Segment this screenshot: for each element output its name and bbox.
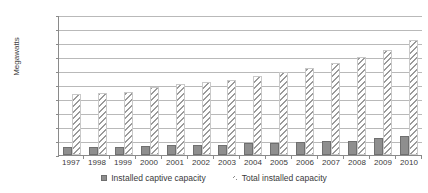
bar-group (85, 16, 111, 155)
bar (409, 40, 418, 156)
bar (89, 147, 98, 155)
x-axis-tick-label: 2007 (318, 158, 344, 167)
x-axis-tick-label: 2006 (292, 158, 318, 167)
x-axis-tick-label: 2001 (162, 158, 188, 167)
x-axis-tick-label: 1997 (58, 158, 84, 167)
bar-chart: Megawatts 020,00040,00060,00080,000100,0… (0, 0, 428, 193)
bar (176, 84, 185, 155)
x-axis-tick-label: 2004 (240, 158, 266, 167)
bar-group (59, 16, 85, 155)
y-axis-title: Megawatts (12, 17, 21, 97)
bar (357, 57, 366, 155)
x-axis-tick-label: 2008 (344, 158, 370, 167)
legend-label: Installed captive capacity (111, 173, 206, 183)
x-axis-tick-label: 2003 (214, 158, 240, 167)
bar-group (396, 16, 422, 155)
bar (383, 50, 392, 155)
legend-swatch-hatch-icon (232, 175, 238, 181)
bar (72, 94, 81, 155)
bar (348, 141, 357, 155)
bar-group (189, 16, 215, 155)
bar (322, 141, 331, 155)
x-axis-tick-label: 2009 (370, 158, 396, 167)
bar (218, 145, 227, 156)
bar (305, 68, 314, 155)
bar (141, 146, 150, 155)
bar (167, 145, 176, 155)
bar (63, 147, 72, 155)
bar-group (240, 16, 266, 155)
bar (253, 76, 262, 155)
bar-group (344, 16, 370, 155)
legend-item: Total installed capacity (232, 173, 327, 183)
bar (115, 147, 124, 155)
bar-group (370, 16, 396, 155)
bar-group (111, 16, 137, 155)
bar (279, 72, 288, 155)
bar (374, 138, 383, 155)
bar-series-container (59, 16, 422, 155)
bar (150, 87, 159, 155)
chart-legend: Installed captive capacityTotal installe… (0, 173, 428, 183)
x-axis-tick-label: 2000 (136, 158, 162, 167)
x-axis-tick-label: 1998 (84, 158, 110, 167)
legend-label: Total installed capacity (242, 173, 327, 183)
bar (202, 82, 211, 156)
x-axis-tick-label: 2002 (188, 158, 214, 167)
bar (270, 143, 279, 155)
bar (331, 63, 340, 155)
legend-item: Installed captive capacity (101, 173, 206, 183)
bar (124, 92, 133, 155)
x-axis-tick-label: 2010 (396, 158, 422, 167)
x-axis-tick-label: 2005 (266, 158, 292, 167)
bar-group (292, 16, 318, 155)
bar (98, 93, 107, 155)
bar (296, 142, 305, 155)
legend-swatch-solid-icon (101, 175, 107, 181)
bar-group (163, 16, 189, 155)
bar-group (266, 16, 292, 155)
bar (400, 136, 409, 155)
bar (244, 143, 253, 155)
bar (193, 145, 202, 155)
x-axis-tick-label: 1999 (110, 158, 136, 167)
plot-area: 020,00040,00060,00080,000100,000120,0001… (58, 16, 422, 156)
bar-group (137, 16, 163, 155)
bar (227, 80, 236, 155)
bar-group (215, 16, 241, 155)
bar-group (318, 16, 344, 155)
x-axis-labels: 1997199819992000200120022003200420052006… (58, 158, 422, 167)
